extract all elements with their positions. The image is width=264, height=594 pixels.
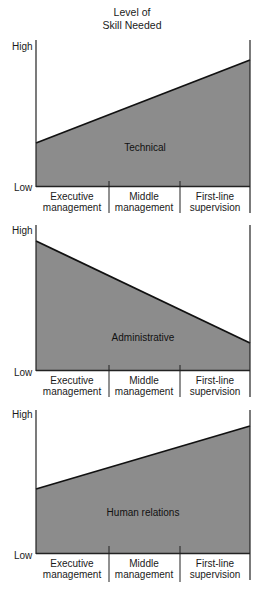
high-label: High (12, 409, 33, 420)
category-executive-l2: management (43, 569, 102, 580)
high-label: High (12, 41, 33, 52)
category-middle-l2: management (115, 569, 174, 580)
area-label-administrative: Administrative (112, 332, 175, 343)
human-relations-area (36, 426, 250, 553)
category-middle-l1: Middle (129, 191, 159, 202)
category-firstline-l1: First-line (196, 375, 235, 386)
panel-technical: High Low Technical Executive management … (12, 40, 250, 213)
category-firstline-l2: supervision (190, 386, 241, 397)
category-firstline-l1: First-line (196, 191, 235, 202)
category-middle-l1: Middle (129, 558, 159, 569)
high-label: High (12, 225, 33, 236)
area-label-technical: Technical (124, 142, 166, 153)
category-middle-l2: management (115, 202, 174, 213)
area-label-human-relations: Human relations (107, 507, 180, 518)
category-executive-l2: management (43, 202, 102, 213)
skill-charts: High Low Technical Executive management … (0, 0, 264, 594)
category-middle-l2: management (115, 386, 174, 397)
low-label: Low (14, 182, 33, 193)
category-executive-l1: Executive (50, 375, 94, 386)
category-firstline-l2: supervision (190, 569, 241, 580)
low-label: Low (14, 550, 33, 561)
technical-area (36, 60, 250, 186)
category-executive-l1: Executive (50, 191, 94, 202)
low-label: Low (14, 367, 33, 378)
category-executive-l1: Executive (50, 558, 94, 569)
category-firstline-l2: supervision (190, 202, 241, 213)
category-executive-l2: management (43, 386, 102, 397)
panel-administrative: High Low Administrative Executive manage… (12, 225, 250, 397)
category-middle-l1: Middle (129, 375, 159, 386)
administrative-area (36, 241, 250, 370)
category-firstline-l1: First-line (196, 558, 235, 569)
panel-human-relations: High Low Human relations Executive manag… (12, 409, 250, 582)
